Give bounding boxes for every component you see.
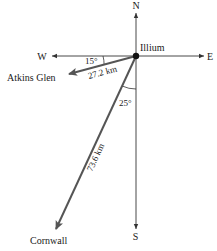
cornwall-angle: 25° (119, 98, 132, 108)
north-label: N (132, 0, 139, 11)
south-label: S (133, 231, 139, 242)
cornwall-label: Cornwall (30, 235, 67, 246)
atkins-glen-distance: 27.2 km (87, 64, 118, 81)
navigation-diagram: N S W E Illium Atkins Glen 15° 27.2 km C… (0, 0, 217, 251)
atkins-glen-angle: 15° (85, 56, 98, 66)
atkins-glen-label: Atkins Glen (7, 72, 56, 83)
east-label: E (207, 51, 213, 62)
angle-arc-25 (122, 86, 136, 89)
compass-axes (52, 13, 204, 229)
angle-arc-15 (103, 56, 104, 65)
illium-label: Illium (140, 42, 165, 53)
west-label: W (37, 51, 47, 62)
cornwall-distance: 73.6 km (85, 142, 107, 173)
illium-point (133, 53, 139, 59)
